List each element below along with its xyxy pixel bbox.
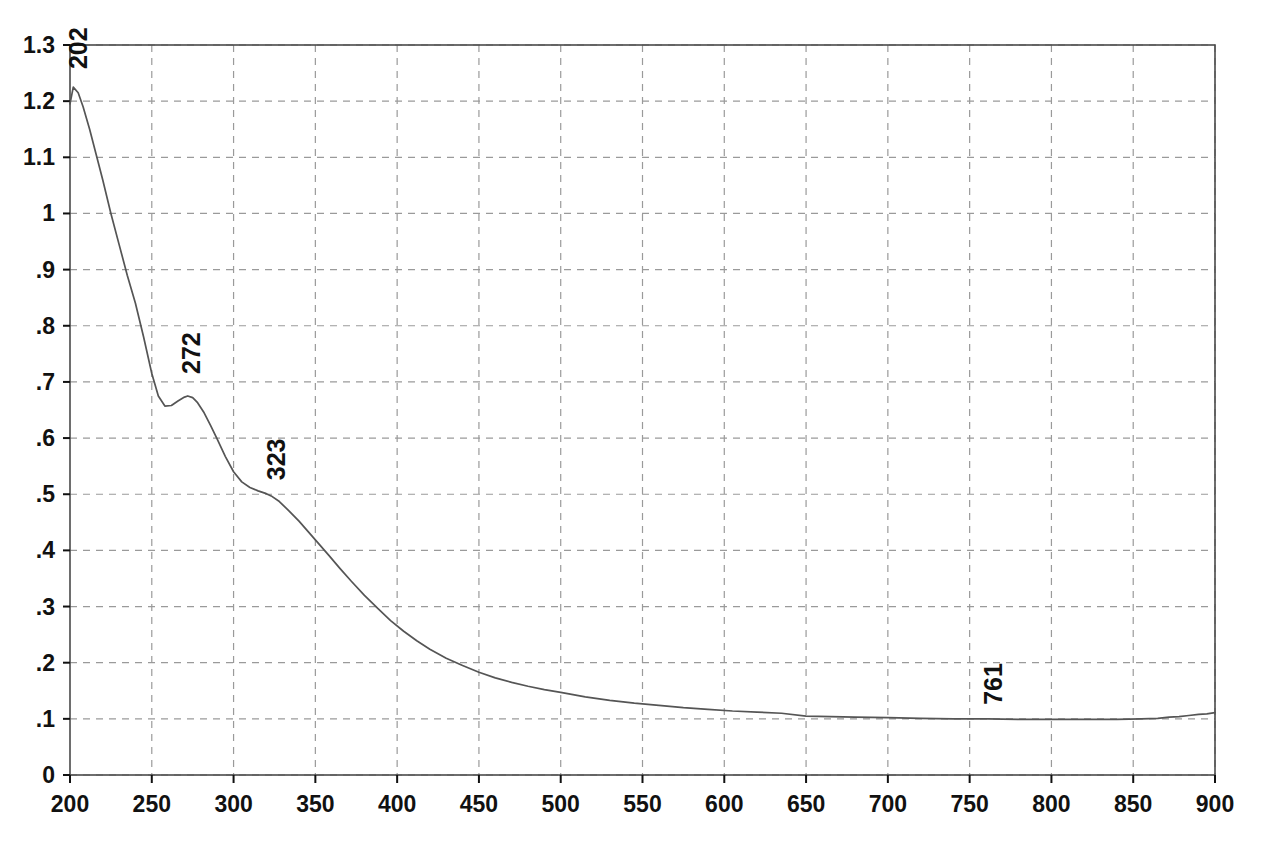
x-axis-tick-label: 200 [51,791,89,817]
x-axis-tick-label: 500 [542,791,580,817]
y-axis-tick-label: 1 [42,200,55,226]
peak-label-761: 761 [979,663,1007,705]
y-axis-tick-label: .9 [36,257,55,283]
peak-label-323: 323 [262,439,290,481]
x-axis-tick-label: 850 [1114,791,1152,817]
uv-vis-spectrum-figure: 0.1.2.3.4.5.6.7.8.911.11.21.3 2002503003… [0,0,1268,855]
y-axis-tick-label: .1 [36,706,55,732]
y-axis-tick-labels: 0.1.2.3.4.5.6.7.8.911.11.21.3 [23,32,55,788]
peak-annotations: 202272323761 [64,27,1006,704]
grid-lines [70,45,1215,775]
y-axis-tick-label: 0 [42,762,55,788]
x-axis-tick-label: 350 [296,791,334,817]
axis-ticks [63,45,1215,783]
y-axis-tick-label: .2 [36,650,55,676]
y-axis-tick-label: .6 [36,425,55,451]
x-axis-tick-label: 750 [950,791,988,817]
y-axis-tick-label: .7 [36,369,55,395]
x-axis-tick-label: 550 [623,791,661,817]
x-axis-tick-label: 450 [460,791,498,817]
x-axis-tick-label: 900 [1196,791,1234,817]
x-axis-tick-label: 700 [869,791,907,817]
peak-label-272: 272 [177,332,205,374]
x-axis-tick-label: 300 [214,791,252,817]
y-axis-tick-label: 1.1 [23,144,55,170]
y-axis-tick-label: .4 [36,537,55,563]
peak-label-202: 202 [64,27,92,69]
spectrum-chart: 0.1.2.3.4.5.6.7.8.911.11.21.3 2002503003… [0,0,1268,855]
y-axis-tick-label: .8 [36,313,55,339]
x-axis-tick-label: 650 [787,791,825,817]
y-axis-tick-label: .5 [36,481,55,507]
x-axis-tick-label: 400 [378,791,416,817]
x-axis-tick-label: 600 [705,791,743,817]
x-axis-tick-labels: 2002503003504004505005506006507007508008… [51,791,1234,817]
y-axis-tick-label: 1.2 [23,88,55,114]
x-axis-tick-label: 250 [133,791,171,817]
y-axis-tick-label: 1.3 [23,32,55,58]
y-axis-tick-label: .3 [36,594,55,620]
x-axis-tick-label: 800 [1032,791,1070,817]
